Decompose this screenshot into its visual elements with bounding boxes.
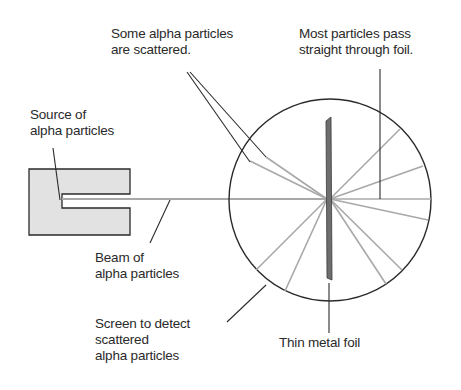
- scattered-rays: [250, 129, 431, 291]
- label-foil: Thin metal foil: [279, 335, 360, 351]
- label-source: Source of alpha particles: [30, 107, 114, 139]
- label-straight-through: Most particles pass straight through foi…: [299, 26, 413, 58]
- label-beam: Beam of alpha particles: [95, 250, 179, 282]
- thin-metal-foil: [326, 117, 332, 280]
- alpha-source-block: [29, 169, 130, 235]
- label-screen: Screen to detect scattered alpha particl…: [95, 316, 190, 364]
- scattering-diagram: [0, 0, 461, 390]
- label-scattered: Some alpha particles are scattered.: [111, 26, 233, 58]
